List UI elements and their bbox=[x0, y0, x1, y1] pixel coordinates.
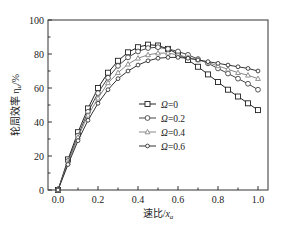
legend-item: Ω=0 bbox=[139, 100, 178, 110]
data-point-marker bbox=[76, 139, 80, 143]
data-point-marker bbox=[146, 52, 151, 56]
data-point-marker bbox=[126, 55, 131, 60]
data-point-marker bbox=[156, 45, 161, 50]
data-point-marker bbox=[246, 81, 251, 86]
data-point-marker bbox=[226, 71, 231, 76]
data-point-marker bbox=[236, 65, 240, 69]
data-point-marker bbox=[206, 72, 211, 77]
data-point-marker bbox=[216, 80, 221, 85]
y-tick-label: 40 bbox=[34, 117, 44, 128]
data-point-marker bbox=[86, 118, 90, 122]
data-point-marker bbox=[216, 61, 220, 65]
data-point-marker bbox=[126, 50, 131, 55]
data-point-marker bbox=[136, 49, 141, 54]
data-point-marker bbox=[156, 51, 161, 55]
data-point-marker bbox=[256, 69, 260, 73]
data-point-marker bbox=[206, 60, 210, 64]
data-point-marker bbox=[116, 64, 121, 69]
x-tick-label: 0.0 bbox=[52, 194, 65, 205]
data-point-marker bbox=[116, 58, 121, 63]
y-tick-label: 80 bbox=[34, 49, 44, 60]
data-point-marker bbox=[226, 63, 230, 67]
series-line bbox=[58, 57, 258, 190]
data-point-marker bbox=[246, 67, 250, 71]
legend-label: Ω=0.6 bbox=[161, 142, 185, 152]
legend-marker bbox=[145, 116, 150, 121]
data-point-marker bbox=[156, 56, 160, 60]
y-tick-label: 20 bbox=[34, 151, 44, 162]
legend-item: Ω=0.6 bbox=[139, 142, 185, 152]
data-point-marker bbox=[106, 70, 111, 75]
data-point-marker bbox=[236, 76, 241, 81]
legend-marker bbox=[145, 102, 150, 107]
data-point-marker bbox=[116, 77, 120, 81]
x-tick-label: 0.4 bbox=[132, 194, 145, 205]
data-point-marker bbox=[176, 56, 180, 60]
legend-label: Ω=0 bbox=[161, 100, 178, 110]
legend: Ω=0Ω=0.2Ω=0.4Ω=0.6 bbox=[139, 100, 185, 152]
legend-label: Ω=0.2 bbox=[161, 114, 185, 124]
data-point-marker bbox=[126, 62, 131, 66]
data-point-marker bbox=[136, 56, 141, 60]
data-point-marker bbox=[146, 46, 151, 51]
data-point-marker bbox=[196, 64, 201, 69]
data-point-marker bbox=[256, 76, 261, 80]
data-point-marker bbox=[96, 101, 100, 105]
data-point-marker bbox=[226, 87, 231, 92]
data-point-marker bbox=[236, 70, 241, 74]
y-tick-label: 60 bbox=[34, 83, 44, 94]
data-point-marker bbox=[146, 59, 150, 63]
data-point-marker bbox=[166, 56, 170, 60]
x-tick-label: 1.0 bbox=[252, 194, 265, 205]
data-point-marker bbox=[256, 87, 261, 92]
legend-item: Ω=0.4 bbox=[139, 128, 185, 138]
data-point-marker bbox=[236, 94, 241, 99]
data-point-marker bbox=[256, 108, 261, 113]
data-point-marker bbox=[126, 69, 130, 73]
data-point-marker bbox=[66, 163, 70, 167]
legend-item: Ω=0.2 bbox=[139, 114, 185, 124]
y-tick-label: 100 bbox=[29, 15, 44, 26]
y-tick-label: 0 bbox=[39, 185, 44, 196]
data-point-marker bbox=[136, 63, 140, 67]
data-point-marker bbox=[246, 73, 251, 77]
data-point-marker bbox=[196, 58, 200, 62]
series-group bbox=[56, 42, 261, 192]
x-tick-label: 0.2 bbox=[92, 194, 105, 205]
data-point-marker bbox=[246, 101, 251, 106]
x-tick-label: 0.6 bbox=[172, 194, 185, 205]
x-tick-label: 0.8 bbox=[212, 194, 225, 205]
y-axis-title: 轮周效率 ηu/% bbox=[9, 74, 23, 136]
data-point-marker bbox=[186, 56, 190, 60]
data-point-marker bbox=[56, 188, 60, 192]
data-point-marker bbox=[106, 88, 110, 92]
legend-marker bbox=[145, 129, 150, 133]
legend-marker bbox=[146, 144, 150, 148]
x-axis-title: 速比/xa bbox=[143, 208, 174, 221]
legend-label: Ω=0.4 bbox=[161, 128, 185, 138]
efficiency-chart: 0204060801000.00.20.40.60.81.0 Ω=0Ω=0.2Ω… bbox=[0, 0, 285, 230]
